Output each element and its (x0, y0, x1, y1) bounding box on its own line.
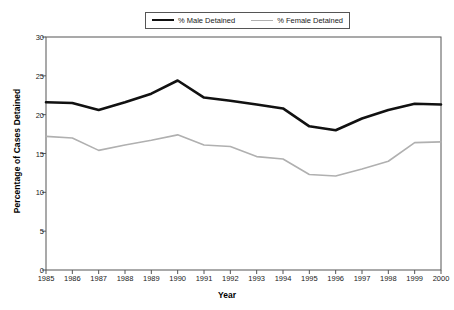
chart-legend: % Male Detained % Female Detained (145, 12, 350, 29)
y-axis-tick-labels: 051015202530 (22, 0, 44, 310)
y-axis-tick-label: 15 (24, 149, 44, 158)
legend-label-male: % Male Detained (178, 16, 235, 25)
plot-area (0, 0, 454, 310)
y-axis-title: Percentage of Cases Detained (12, 51, 22, 251)
y-axis-tick-label: 5 (24, 227, 44, 236)
chart-container: % Male Detained % Female Detained Percen… (0, 0, 454, 310)
series-line-female (46, 135, 441, 176)
legend-line-female-icon (251, 20, 273, 21)
y-axis-tick-label: 10 (24, 188, 44, 197)
y-axis-tick-label: 30 (24, 33, 44, 42)
legend-entry-male: % Male Detained (152, 16, 235, 25)
x-axis-title: Year (0, 290, 454, 300)
legend-line-male-icon (152, 19, 174, 21)
plot-frame (46, 37, 441, 270)
legend-entry-female: % Female Detained (251, 16, 343, 25)
y-axis-tick-label: 20 (24, 110, 44, 119)
x-axis-tick-label: 2000 (421, 274, 454, 283)
legend-label-female: % Female Detained (277, 16, 343, 25)
series-line-male (46, 80, 441, 130)
y-axis-tick-label: 25 (24, 71, 44, 80)
